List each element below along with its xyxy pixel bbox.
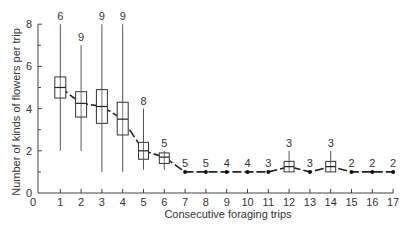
sample-size-label: 9 — [78, 31, 84, 43]
trip-5: 8 — [139, 95, 149, 170]
data-point — [266, 170, 270, 174]
x-tick-label: 3 — [99, 196, 105, 208]
data-point — [370, 170, 374, 174]
trip-3: 9 — [96, 10, 107, 172]
data-point — [183, 170, 187, 174]
x-tick-label: 11 — [263, 196, 274, 208]
sample-size-label: 5 — [182, 157, 188, 169]
sample-size-label: 5 — [203, 157, 209, 169]
x-axis-label: Consecutive foraging trips — [164, 208, 292, 220]
sample-size-label: 6 — [57, 10, 63, 22]
x-tick-label: 5 — [140, 196, 146, 208]
sample-size-label: 3 — [265, 157, 271, 169]
x-tick-label: 6 — [161, 196, 167, 208]
plot-area: 69998555443333222 — [55, 10, 396, 174]
data-point — [246, 170, 250, 174]
data-point — [391, 170, 395, 174]
sample-size-label: 2 — [348, 157, 354, 169]
data-point — [225, 170, 229, 174]
x-tick-label: 9 — [224, 196, 230, 208]
sample-size-label: 4 — [224, 157, 230, 169]
sample-size-label: 2 — [390, 157, 396, 169]
x-tick-label: 12 — [283, 196, 295, 208]
trip-6: 5 — [159, 137, 169, 170]
sample-size-label: 9 — [99, 10, 105, 22]
x-tick-label: 17 — [387, 196, 399, 208]
data-point — [350, 170, 354, 174]
y-axis-label: Number of kinds of flowers per trip — [10, 28, 22, 196]
data-point — [204, 170, 208, 174]
x-tick-label: 0 — [30, 196, 36, 208]
sample-size-label: 2 — [369, 157, 375, 169]
data-point — [308, 170, 312, 174]
x-tick-label: 7 — [182, 196, 188, 208]
x-tick-label: 15 — [345, 196, 357, 208]
trip-12: 3 — [284, 137, 294, 172]
y-tick-label: 6 — [26, 60, 32, 72]
sample-size-label: 8 — [140, 95, 146, 107]
trip-1: 6 — [55, 10, 66, 151]
y-tick-label: 8 — [26, 18, 32, 30]
sample-size-label: 5 — [161, 137, 167, 149]
axes — [38, 24, 393, 193]
x-tick-label: 2 — [78, 196, 84, 208]
sample-size-label: 3 — [286, 137, 292, 149]
x-tick-label: 4 — [120, 196, 126, 208]
y-tick-label: 4 — [26, 103, 32, 115]
x-tick-label: 10 — [241, 196, 253, 208]
trip-14: 3 — [326, 137, 336, 172]
box-plot-chart: 0246801234567891011121314151617 69998555… — [0, 0, 416, 227]
sample-size-label: 3 — [307, 157, 313, 169]
trip-2: 9 — [76, 31, 87, 151]
sample-size-label: 4 — [244, 157, 250, 169]
x-tick-label: 1 — [57, 196, 63, 208]
x-tick-label: 16 — [366, 196, 378, 208]
x-tick-label: 8 — [203, 196, 209, 208]
sample-size-label: 3 — [328, 137, 334, 149]
y-tick-label: 2 — [26, 145, 32, 157]
x-tick-label: 14 — [325, 196, 337, 208]
sample-size-label: 9 — [120, 10, 126, 22]
trip-4: 9 — [117, 10, 128, 172]
x-tick-label: 13 — [304, 196, 316, 208]
